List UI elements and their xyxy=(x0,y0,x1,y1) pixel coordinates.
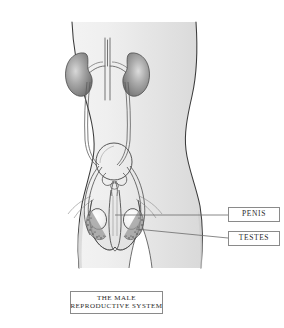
label-box-penis: PENIS xyxy=(228,207,280,222)
label-text-testes: TESTES xyxy=(239,234,269,242)
label-text-penis: PENIS xyxy=(242,210,266,218)
diagram-caption-box: THE MALE REPRODUCTIVE SYSTEM xyxy=(70,291,163,314)
caption-line-2: REPRODUCTIVE SYSTEM xyxy=(70,303,162,311)
male-reproductive-system-illustration xyxy=(0,0,284,328)
left-kidney xyxy=(65,53,92,96)
diagram-canvas: PENIS TESTES THE MALE REPRODUCTIVE SYSTE… xyxy=(0,0,284,328)
label-box-testes: TESTES xyxy=(228,231,280,246)
